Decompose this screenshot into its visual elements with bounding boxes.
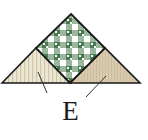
quilt-diagram: E: [0, 0, 148, 140]
piece-label: E: [62, 96, 79, 126]
